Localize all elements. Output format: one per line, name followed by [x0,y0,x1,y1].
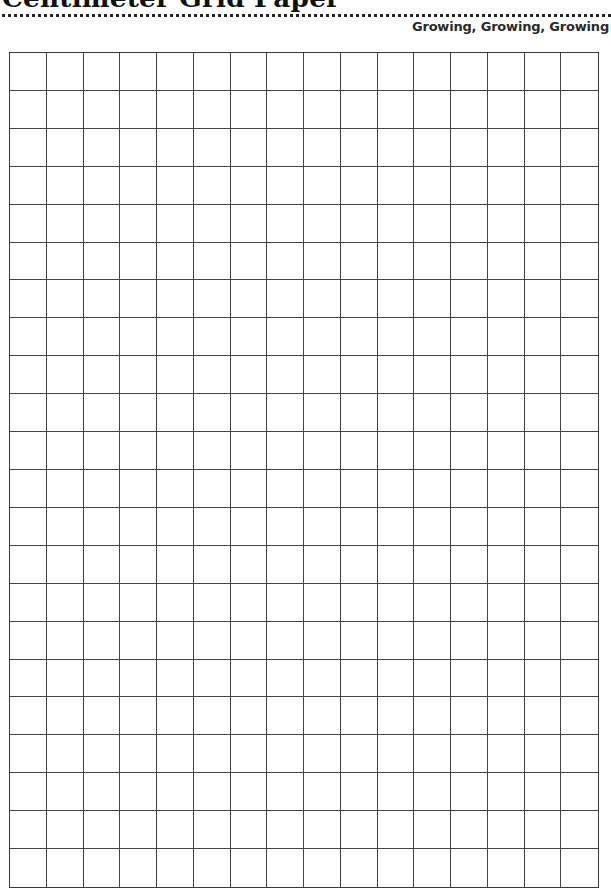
grid-cell [304,735,341,773]
grid-cell [194,205,231,243]
grid-cell [414,546,451,584]
grid-cell [194,660,231,698]
grid-cell [561,394,598,432]
grid-cell [47,167,84,205]
grid-cell [157,849,194,887]
grid-cell [10,356,47,394]
grid-cell [267,697,304,735]
grid-cell [488,546,525,584]
grid-cell [341,280,378,318]
grid-cell [231,735,268,773]
grid-cell [304,546,341,584]
grid-cell [157,470,194,508]
grid-cell [194,697,231,735]
grid-cell [561,243,598,281]
grid-cell [231,91,268,129]
grid-cell [488,811,525,849]
grid-cell [120,205,157,243]
grid-cell [194,622,231,660]
grid-cell [231,584,268,622]
grid-cell [561,318,598,356]
grid-cell [378,205,415,243]
grid-cell [47,584,84,622]
grid-cell [47,735,84,773]
grid-cell [267,318,304,356]
grid-cell [304,91,341,129]
grid-cell [341,735,378,773]
grid-cell [120,470,157,508]
grid-cell [451,432,488,470]
grid-cell [120,622,157,660]
grid-cell [84,849,121,887]
grid-cell [341,205,378,243]
grid-cell [525,129,562,167]
grid-cell [194,280,231,318]
grid-cell [267,470,304,508]
centimeter-grid [9,52,599,888]
grid-cell [157,243,194,281]
grid-cell [231,849,268,887]
grid-cell [414,735,451,773]
grid-cell [157,53,194,91]
grid-cell [267,280,304,318]
grid-cell [194,318,231,356]
grid-cell [84,546,121,584]
grid-cell [488,205,525,243]
grid-cell [10,735,47,773]
grid-cell [194,129,231,167]
grid-cell [304,697,341,735]
grid-cell [47,91,84,129]
grid-cell [157,811,194,849]
grid-cell [341,318,378,356]
grid-cell [10,318,47,356]
grid-cell [10,849,47,887]
grid-cell [267,53,304,91]
grid-cell [84,773,121,811]
grid-cell [10,546,47,584]
grid-cell [378,91,415,129]
grid-cell [525,318,562,356]
grid-cell [304,243,341,281]
grid-cell [267,91,304,129]
grid-cell [47,508,84,546]
grid-cell [451,470,488,508]
grid-cell [414,622,451,660]
grid-cell [194,849,231,887]
grid-cell [231,243,268,281]
grid-cell [378,773,415,811]
grid-cell [84,584,121,622]
grid-cell [525,470,562,508]
grid-cell [341,773,378,811]
grid-cell [341,91,378,129]
grid-cell [378,394,415,432]
grid-cell [525,546,562,584]
grid-cell [304,205,341,243]
grid-cell [47,546,84,584]
grid-cell [120,356,157,394]
grid-cell [267,546,304,584]
grid-cell [120,849,157,887]
grid-cell [267,129,304,167]
grid-cell [267,660,304,698]
grid-cell [84,432,121,470]
grid-cell [451,735,488,773]
grid-cell [194,356,231,394]
grid-cell [267,811,304,849]
grid-cell [488,432,525,470]
grid-cell [561,773,598,811]
grid-cell [378,470,415,508]
grid-cell [47,470,84,508]
grid-cell [525,394,562,432]
grid-cell [194,432,231,470]
grid-cell [488,773,525,811]
grid-cell [120,53,157,91]
grid-cell [194,167,231,205]
grid-cell [10,129,47,167]
grid-cell [157,280,194,318]
page-title: Centimeter Grid Paper [2,0,340,11]
grid-cell [267,205,304,243]
grid-cell [231,394,268,432]
grid-cell [561,660,598,698]
grid-cell [120,318,157,356]
grid-cell [304,849,341,887]
